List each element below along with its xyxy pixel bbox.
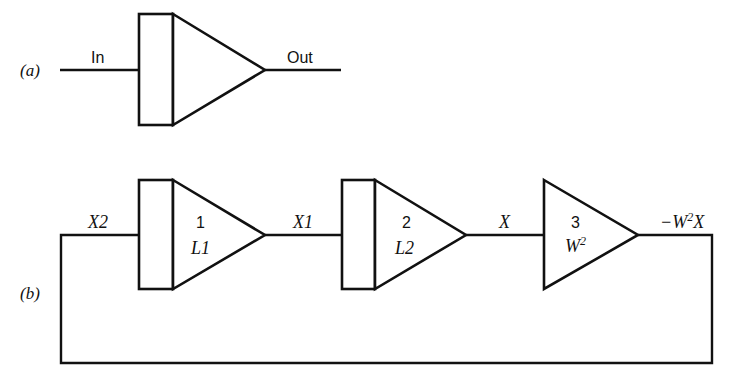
part-b-label: (b) xyxy=(20,284,40,303)
stage-3-gain-sup: 2 xyxy=(580,234,586,248)
signal-output-prefix: −W xyxy=(660,212,689,232)
signal-output-suffix: X xyxy=(692,212,705,232)
stage-1: 1 L1 xyxy=(139,180,265,289)
part-b: (b) X2 1 L1 X1 2 L2 X 3 W2 −W2 xyxy=(20,180,712,363)
block-diagram: (a) In Out (b) X2 1 L1 X1 2 L2 X xyxy=(0,0,738,376)
stage-2-gain: L2 xyxy=(394,238,414,258)
stage-2-triangle xyxy=(375,180,466,289)
input-label: In xyxy=(91,49,104,66)
stage-2: 2 L2 xyxy=(342,180,466,289)
stage-2-number: 2 xyxy=(402,214,411,231)
stage-3-number: 3 xyxy=(571,214,580,231)
stage-3-triangle xyxy=(544,180,638,289)
signal-output-label: −W2X xyxy=(660,210,705,232)
signal-x2-label: X2 xyxy=(87,212,108,232)
stage-1-integrator-block xyxy=(139,180,173,289)
stage-1-gain: L1 xyxy=(190,238,210,258)
stage-1-number: 1 xyxy=(196,214,205,231)
amplifier-triangle xyxy=(173,14,265,125)
stage-2-integrator-block xyxy=(342,180,375,289)
output-label: Out xyxy=(287,49,313,66)
signal-x-label: X xyxy=(498,212,511,232)
part-a-label: (a) xyxy=(20,61,40,80)
integrator-block xyxy=(139,14,173,125)
stage-1-triangle xyxy=(173,180,265,289)
stage-3: 3 W2 xyxy=(544,180,638,289)
part-a: (a) In Out xyxy=(20,14,341,125)
signal-x1-label: X1 xyxy=(292,212,313,232)
